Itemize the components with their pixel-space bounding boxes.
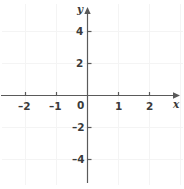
x-axis-label: x <box>173 99 179 110</box>
y-tick-label-neg2: –2 <box>72 122 85 133</box>
x-tick-label-neg2: –2 <box>18 101 31 112</box>
x-tick-label-neg1: –1 <box>49 101 62 112</box>
y-axis-label: y <box>77 4 83 15</box>
coordinate-plane-figure: –2 –1 1 2 4 2 –2 –4 0 y x <box>0 0 184 189</box>
y-axis-arrowhead <box>84 7 90 14</box>
x-tick-label-pos1: 1 <box>115 101 122 112</box>
y-tick-label-pos4: 4 <box>76 26 83 37</box>
x-tick-label-pos2: 2 <box>146 101 153 112</box>
y-tick-label-neg4: –4 <box>72 154 85 165</box>
origin-label: 0 <box>77 100 84 111</box>
coordinate-grid-svg <box>0 0 184 189</box>
y-tick-label-pos2: 2 <box>76 58 83 69</box>
